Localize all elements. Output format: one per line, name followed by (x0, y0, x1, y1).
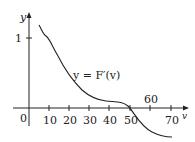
y-tick-label-1: 1 (15, 33, 22, 44)
x-tick-label-60: 60 (144, 94, 158, 105)
x-axis-arrow-icon (183, 106, 189, 111)
x-tick-label-30: 30 (83, 115, 97, 126)
curve-label: y = F′(v) (73, 70, 120, 81)
x-tick-label-50: 50 (124, 115, 138, 126)
x-tick-label-40: 40 (103, 115, 117, 126)
x-axis-label: v (182, 112, 187, 121)
y-axis-arrow-icon (27, 12, 32, 18)
x-tick-label-10: 10 (43, 115, 57, 126)
origin-label: 0 (20, 113, 27, 124)
x-tick-label-70: 70 (165, 115, 179, 126)
y-axis-label: y (20, 12, 26, 23)
x-tick-label-20: 20 (63, 115, 77, 126)
